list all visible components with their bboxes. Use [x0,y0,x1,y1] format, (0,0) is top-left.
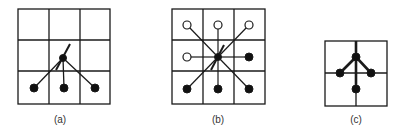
diagram-canvas [0,0,406,132]
edges-a [34,58,95,88]
node-c-l [336,69,344,77]
node-b-t-open [214,21,222,29]
node-a-b [60,84,68,92]
node-a-bl [30,84,38,92]
node-b-bl [183,85,191,93]
node-b-br [245,85,253,93]
panel-b [172,9,265,104]
node-b-l-open [183,53,191,61]
node-c-b [352,85,360,93]
node-b-r [245,53,253,61]
center-node-b [215,54,222,61]
node-b-b [214,85,222,93]
panel-b-label: (b) [212,114,224,125]
panel-c-label: (c) [350,114,362,125]
node-b-tr-open [245,21,253,29]
center-node-c [352,53,360,61]
center-node-a [60,55,67,62]
node-c-r [367,69,375,77]
panel-a-label: (a) [54,114,66,125]
panel-c [325,41,387,106]
edges-c [340,41,371,89]
node-a-br [91,84,99,92]
panel-a [18,9,110,104]
node-b-tl-open [183,21,191,29]
